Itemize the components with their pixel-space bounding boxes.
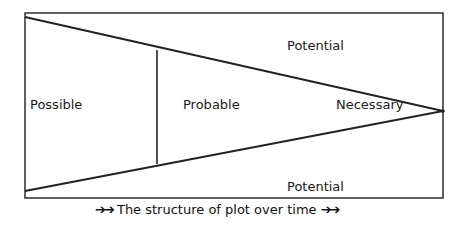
arrow-right-icon: ➔➔ xyxy=(95,202,113,217)
caption-text: The structure of plot over time xyxy=(117,202,317,217)
diagram-caption: ➔➔ The structure of plot over time ➔➔ xyxy=(95,201,377,218)
label-potential-bottom: Potential xyxy=(287,179,344,194)
label-necessary: Necessary xyxy=(336,97,403,112)
label-probable: Probable xyxy=(183,97,240,112)
arrow-right-icon: ➔➔ xyxy=(321,202,339,217)
lower-cone-line xyxy=(25,111,443,191)
label-possible: Possible xyxy=(30,97,82,112)
label-potential-top: Potential xyxy=(287,38,344,53)
apex-point xyxy=(441,109,445,113)
